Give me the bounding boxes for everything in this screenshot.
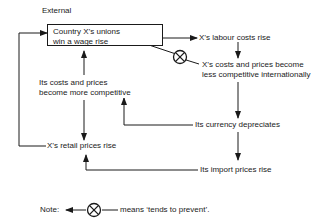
node-less-competitive: X’s costs and prices become less competi… (202, 60, 311, 80)
node-more-competitive: Its costs and prices become more competi… (39, 78, 131, 98)
arrow-import-to-retail (86, 155, 198, 170)
arrow-currency-to-more-competitive (124, 98, 193, 125)
node-labour-costs: X’s labour costs rise (199, 33, 270, 43)
note-meaning: means ‘tends to prevent’. (120, 205, 209, 215)
header-external: External (42, 6, 71, 16)
node-more-competitive-line2: become more competitive (39, 88, 131, 98)
node-more-competitive-line1: Its costs and prices (39, 78, 131, 88)
node-wage-rise-line2: win a wage rise (53, 37, 157, 47)
note-label: Note: (40, 205, 59, 215)
node-less-competitive-line1: X’s costs and prices become (202, 60, 311, 70)
node-import: Its import prices rise (200, 165, 272, 175)
node-retail: X’s retail prices rise (47, 141, 116, 151)
node-wage-rise: Country X’s unions win a wage rise (47, 24, 163, 46)
node-wage-rise-line1: Country X’s unions (53, 27, 157, 37)
node-less-competitive-line2: less competitive internationally (202, 70, 311, 80)
header-text: External (42, 6, 71, 15)
node-currency: Its currency depreciates (195, 120, 280, 130)
